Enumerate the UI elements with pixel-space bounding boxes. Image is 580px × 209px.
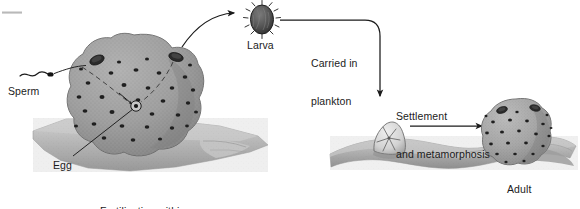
caption-fertilization: Fertilization within adult sponge	[100, 180, 185, 209]
sponge-life-cycle-figure: Sperm Egg Fertilization within adult spo…	[0, 0, 580, 209]
larva-icon	[244, 1, 281, 39]
label-carried-in-plankton-line2: plankton	[311, 95, 358, 108]
label-carried-in-plankton: Carried in plankton	[311, 32, 358, 132]
label-settlement-line1: Settlement	[396, 110, 490, 123]
sperm-icon	[20, 72, 54, 77]
adult-sponge-left	[67, 33, 204, 156]
caption-fertilization-line1: Fertilization within	[100, 205, 185, 209]
scan-artifact	[2, 12, 22, 14]
adult-sponge-right	[481, 98, 552, 164]
label-carried-in-plankton-line1: Carried in	[311, 57, 358, 70]
label-settlement-line2: and metamorphosis	[396, 148, 490, 161]
label-egg: Egg	[53, 159, 72, 172]
label-adult: Adult	[507, 183, 531, 196]
label-sperm: Sperm	[8, 85, 39, 98]
larva-release-arrow	[182, 13, 234, 47]
label-larva: Larva	[247, 39, 274, 52]
label-settlement-metamorphosis: Settlement and metamorphosis	[396, 85, 490, 185]
diagram-canvas	[0, 0, 580, 209]
